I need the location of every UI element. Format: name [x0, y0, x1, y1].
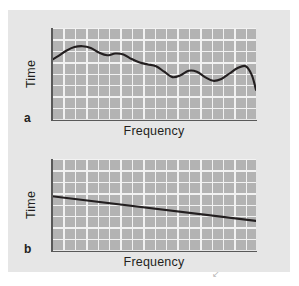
figure-container: Time Frequency a Time Frequency b ↙ [0, 0, 299, 286]
x-axis-label-a: Frequency [52, 124, 256, 138]
y-axis-spine-b [51, 159, 53, 252]
data-curve-a [52, 28, 256, 119]
x-axis-label-b: Frequency [52, 255, 256, 269]
y-axis-label-a: Time [23, 48, 39, 100]
x-axis-spine-b [51, 251, 257, 253]
subplot-tag-b: b [24, 242, 31, 256]
plot-area-a [52, 28, 256, 119]
subplot-a: Time Frequency a [8, 10, 290, 141]
stray-artifact-mark: ↙ [212, 272, 217, 277]
figure-panel: Time Frequency a Time Frequency b [8, 10, 290, 272]
y-axis-spine-a [51, 28, 53, 121]
subplot-b: Time Frequency b [8, 141, 290, 272]
plot-area-b [52, 159, 256, 250]
y-axis-label-b: Time [23, 179, 39, 231]
data-curve-b [52, 159, 256, 250]
subplot-tag-a: a [24, 111, 31, 125]
x-axis-spine-a [51, 120, 257, 122]
